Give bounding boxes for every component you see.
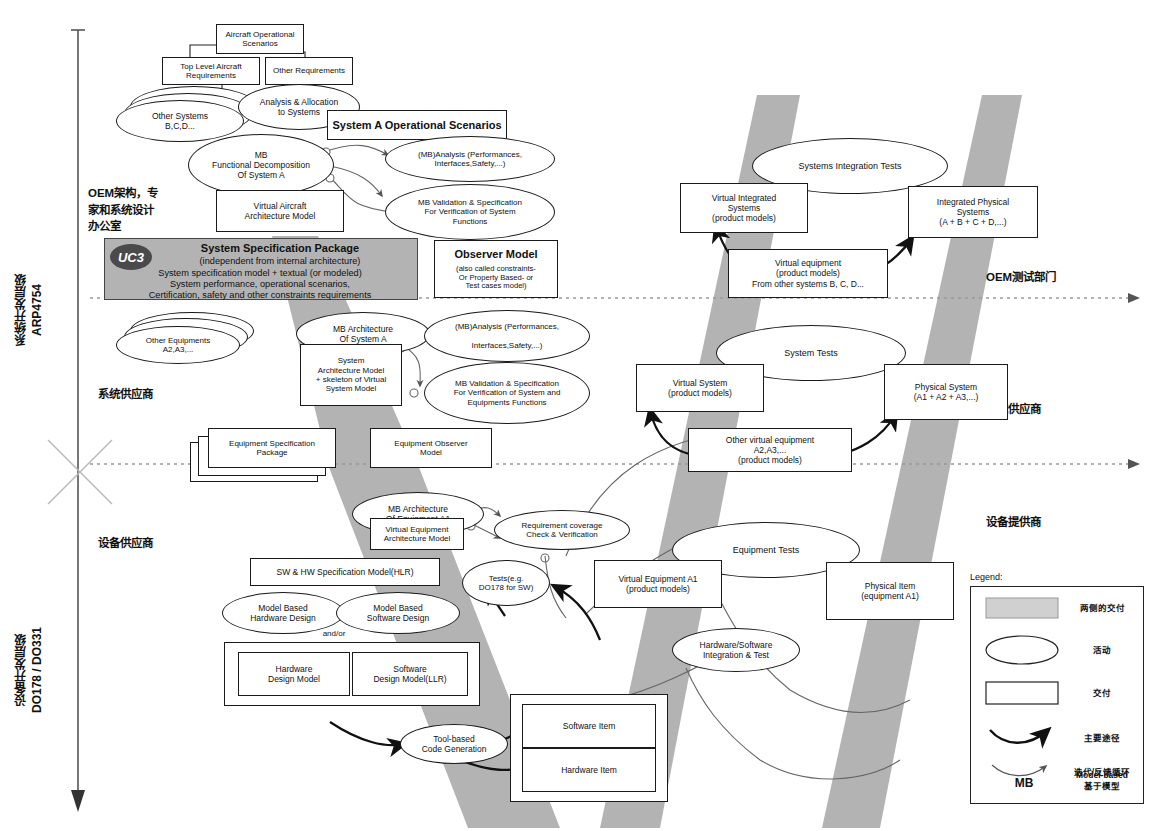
legend-label-deliverable: 交付 [1066, 686, 1138, 698]
legend-label-model-based: Model-based 基于模型 [1062, 770, 1142, 793]
legend-graphics [0, 0, 1167, 831]
legend-label-band: 两侧的交付 [1066, 601, 1138, 613]
legend-mb-abbrev: MB [996, 776, 1052, 790]
legend-label-activity: 活动 [1066, 643, 1138, 655]
diagram-canvas: 系统开发层级 ARP4754 设备开发层级 DO178 / DO331 OEM架… [0, 0, 1167, 831]
legend-label-main-path: 主要途径 [1066, 731, 1138, 743]
